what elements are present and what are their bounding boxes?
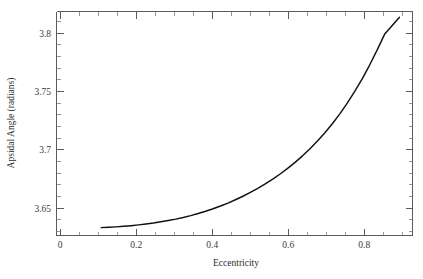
x-tick-label: 0.8 [358,240,370,250]
y-tick-label: 3.7 [39,145,51,155]
x-axis-title: Eccentricity [213,258,259,268]
y-axis-title: Apsidal Angle (radians) [6,78,17,169]
figure-container: 3.65 3.7 3.75 3.8 0 0.2 0.4 0.6 0.8 Ecce… [0,0,423,279]
x-tick-label: 0 [58,240,63,250]
apsidal-angle-vs-eccentricity-chart: 3.65 3.7 3.75 3.8 0 0.2 0.4 0.6 0.8 Ecce… [0,0,423,279]
data-curve-apsidal-angle [101,17,399,227]
x-axis-tick-labels: 0 0.2 0.4 0.6 0.8 [58,240,371,250]
x-tick-label: 0.2 [130,240,142,250]
x-tick-label: 0.4 [206,240,218,250]
y-tick-label: 3.75 [34,87,51,97]
y-tick-label: 3.8 [39,29,51,39]
y-axis-tick-labels: 3.65 3.7 3.75 3.8 [34,29,51,214]
y-tick-label: 3.65 [34,204,51,214]
x-tick-label: 0.6 [282,240,294,250]
plot-frame [57,12,413,236]
